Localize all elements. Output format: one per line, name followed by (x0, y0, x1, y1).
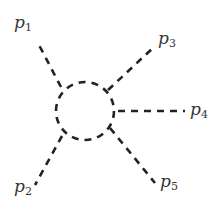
loop-circle (56, 82, 114, 140)
leg-p1 (39, 45, 61, 87)
label-p1: p1 (14, 14, 32, 33)
label-p4: p4 (190, 101, 208, 120)
leg-p5 (110, 128, 155, 183)
leg-p3 (108, 46, 155, 90)
label-p3: p3 (158, 30, 176, 49)
leg-p2 (35, 136, 62, 185)
label-p5: p5 (160, 173, 178, 192)
label-p2: p2 (14, 178, 32, 197)
feynman-diagram (0, 0, 220, 210)
